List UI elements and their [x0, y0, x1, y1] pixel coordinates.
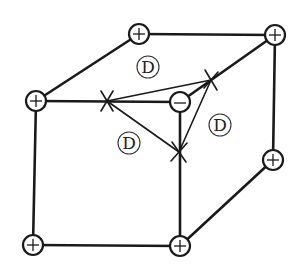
plus-charge-icon: [263, 150, 283, 170]
edge-top-right-diagonal: [180, 35, 275, 102]
d-label-front: D: [118, 132, 140, 154]
edge-back-right-vertical: [273, 35, 275, 160]
edge-top-back: [139, 34, 275, 35]
d-label-text: D: [213, 115, 227, 135]
cross-marker-icon: [204, 70, 218, 90]
diagram-canvas: D D D: [0, 0, 303, 274]
plus-charge-icon: [170, 236, 190, 256]
cube-charge-diagram: D D D: [0, 0, 303, 274]
d-label-text: D: [122, 133, 136, 153]
edge-bottom-right: [180, 160, 273, 246]
d-label-right: D: [209, 114, 231, 136]
plus-charge-icon: [23, 235, 43, 255]
plus-charge-icon: [26, 91, 46, 111]
minus-charge-icon: [170, 92, 190, 112]
edge-bottom-front: [33, 245, 180, 246]
d-label-top: D: [137, 56, 159, 78]
plus-charge-icon: [129, 24, 149, 44]
cross-markers: [101, 70, 218, 162]
edge-top-left: [36, 34, 139, 101]
edge-front-left-vertical: [33, 101, 36, 245]
plus-charge-icon: [265, 25, 285, 45]
d-label-text: D: [141, 57, 155, 77]
